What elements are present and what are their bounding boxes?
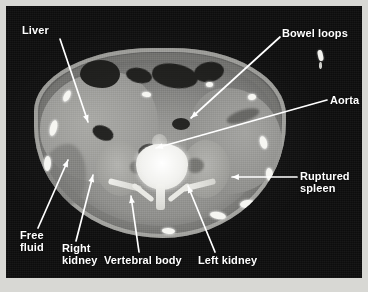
- annotation-label-right-kidney: Right kidney: [62, 242, 97, 266]
- stray-bright-artifact: [317, 50, 324, 62]
- annotation-label-liver: Liver: [22, 24, 49, 36]
- ct-figure: Liver Bowel loops Aorta Ruptured spleen …: [0, 0, 368, 292]
- annotation-label-bowel-loops: Bowel loops: [282, 27, 348, 39]
- patient-cross-section: [34, 48, 286, 238]
- annotation-label-free-fluid: Free fluid: [20, 229, 44, 253]
- annotation-label-aorta: Aorta: [330, 94, 359, 106]
- annotation-label-ruptured-spleen: Ruptured spleen: [300, 170, 350, 194]
- stray-bright-artifact: [319, 62, 322, 69]
- image-grain: [34, 48, 286, 238]
- annotation-label-left-kidney: Left kidney: [198, 254, 257, 266]
- ct-image-panel: [6, 6, 362, 278]
- annotation-label-vertebral-body: Vertebral body: [104, 254, 182, 266]
